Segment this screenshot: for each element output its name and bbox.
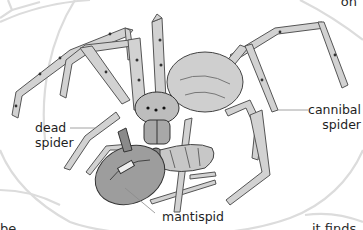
label-dead-spider: dead spider <box>35 120 74 150</box>
label-text: spider <box>35 135 74 150</box>
label-cannibal-spider: cannibal spider <box>308 102 361 132</box>
book-page: dead spider cannibal spider mantispid on… <box>0 0 363 230</box>
cephalothorax <box>135 92 179 124</box>
label-text: cannibal <box>308 102 361 117</box>
text-fragment-bottom-left: be <box>0 221 16 230</box>
label-mantispid: mantispid <box>162 209 224 224</box>
label-text: dead <box>35 120 74 135</box>
text-fragment-top-right: on <box>341 0 357 9</box>
text-fragment-bottom-right: it finds <box>312 221 356 230</box>
label-text: spider <box>308 117 361 132</box>
